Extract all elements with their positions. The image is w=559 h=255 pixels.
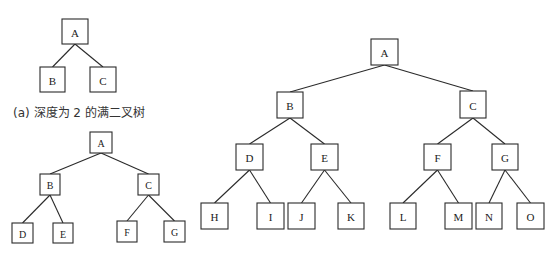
edge-C-F <box>127 195 149 221</box>
node-F: F <box>424 144 451 170</box>
node-label: G <box>501 152 509 164</box>
edge-A-C <box>385 65 474 91</box>
node-A: A <box>371 39 398 65</box>
node-N: N <box>476 203 502 229</box>
edge-F-L <box>403 170 438 203</box>
node-label: C <box>469 100 476 112</box>
node-label: A <box>71 27 79 39</box>
node-E: E <box>53 223 73 243</box>
edge-E-K <box>325 170 352 203</box>
node-D: D <box>236 144 263 170</box>
edge-B-D <box>23 195 51 223</box>
node-O: O <box>517 203 544 229</box>
edge-B-E <box>290 118 325 144</box>
node-label: N <box>485 211 493 223</box>
caption-tree-a: (a) 深度为 2 的满二叉树 <box>13 103 145 120</box>
node-label: C <box>145 180 152 191</box>
edge-B-E <box>50 195 63 223</box>
node-J: J <box>288 203 315 229</box>
node-D: D <box>12 223 33 243</box>
edge-G-N <box>489 170 505 203</box>
node-label: B <box>286 100 293 112</box>
node-label: D <box>19 229 26 240</box>
edge-C-G <box>149 195 175 221</box>
edge-F-M <box>438 170 459 203</box>
edge-A-B <box>290 65 385 92</box>
node-F: F <box>117 221 137 242</box>
node-A: A <box>90 132 112 153</box>
node-E: E <box>311 144 338 170</box>
node-label: F <box>434 152 440 164</box>
node-label: K <box>347 211 355 223</box>
node-label: M <box>454 211 464 223</box>
node-M: M <box>445 203 472 229</box>
node-B: B <box>40 174 60 195</box>
node-label: F <box>124 227 130 238</box>
edge-E-J <box>302 170 325 203</box>
tree-b: ABCDEFG <box>12 132 185 243</box>
node-label: G <box>171 227 178 238</box>
node-B: B <box>277 92 303 118</box>
edge-G-O <box>505 170 531 203</box>
node-label: J <box>299 211 304 223</box>
node-label: I <box>269 211 273 223</box>
tree-a: ABC <box>40 19 116 92</box>
node-I: I <box>257 203 284 229</box>
node-H: H <box>201 203 228 229</box>
edge-A-B <box>53 44 76 67</box>
node-label: O <box>527 211 535 223</box>
edge-B-D <box>250 118 291 144</box>
node-C: C <box>138 174 159 195</box>
node-label: B <box>47 180 54 191</box>
edge-C-G <box>473 118 505 144</box>
node-G: G <box>164 221 185 242</box>
edge-D-H <box>215 170 250 203</box>
node-A: A <box>62 19 88 44</box>
node-C: C <box>90 67 116 92</box>
edge-A-B <box>50 153 101 174</box>
node-C: C <box>460 91 486 118</box>
node-label: H <box>211 211 219 223</box>
edge-C-F <box>438 118 474 144</box>
edge-A-C <box>101 153 149 174</box>
node-label: E <box>321 152 328 164</box>
node-K: K <box>338 203 364 229</box>
node-G: G <box>492 144 518 170</box>
node-B: B <box>40 67 65 92</box>
node-label: D <box>246 152 254 164</box>
node-label: A <box>97 138 105 149</box>
edge-A-C <box>75 44 103 67</box>
node-label: L <box>400 211 407 223</box>
node-L: L <box>390 203 416 229</box>
edge-D-I <box>250 170 271 203</box>
node-label: C <box>99 75 106 87</box>
node-label: A <box>381 47 389 59</box>
node-label: E <box>60 229 66 240</box>
node-label: B <box>49 75 56 87</box>
tree-c: ABCDEFGHIJKLMNO <box>201 39 544 229</box>
binary-tree-figure: ABCABCDEFGABCDEFGHIJKLMNO <box>0 0 559 255</box>
